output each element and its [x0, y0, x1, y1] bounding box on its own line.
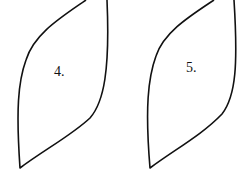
leaf-shape-4 [18, 0, 108, 168]
diagram-canvas [0, 0, 251, 171]
figure-label-4: 4. [54, 65, 65, 79]
figure-label-5: 5. [186, 61, 197, 75]
leaf-shape-5 [148, 0, 236, 168]
